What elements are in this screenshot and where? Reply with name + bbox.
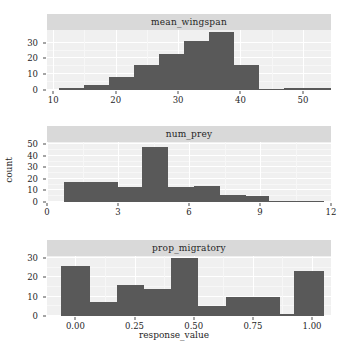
x-tick-mark <box>178 91 179 94</box>
histogram-bar <box>246 196 270 202</box>
y-tick-mark <box>43 42 46 43</box>
x-tick-mark <box>260 203 261 206</box>
y-tick-mark <box>43 296 46 297</box>
y-tick-mark <box>43 144 46 145</box>
gridline-vertical-minor <box>84 30 85 90</box>
y-tick-label: 30 <box>0 38 38 48</box>
panel-mean-wingspan: mean_wingspan <box>47 14 331 90</box>
plot-area-num-prey <box>47 142 331 202</box>
x-tick-label: 40 <box>235 95 246 105</box>
histogram-bar <box>220 195 246 202</box>
x-tick-label: 6 <box>186 207 191 217</box>
x-tick-label: 3 <box>115 207 120 217</box>
y-tick-mark <box>43 190 46 191</box>
y-tick-label: 0 <box>0 85 38 95</box>
histogram-bar <box>259 89 284 90</box>
histogram-bar <box>159 54 184 90</box>
histogram-bar <box>269 201 323 202</box>
histogram-bar <box>194 186 220 202</box>
histogram-bar <box>226 297 253 316</box>
panel-num-prey: num_prey <box>47 126 331 202</box>
histogram-bar <box>294 271 324 316</box>
x-tick-label: 9 <box>257 207 262 217</box>
x-tick-label: 12 <box>326 207 337 217</box>
y-tick-mark <box>43 74 46 75</box>
x-tick-mark <box>118 203 119 206</box>
gridline-vertical-minor <box>272 30 273 90</box>
histogram-bar <box>209 32 234 90</box>
x-tick-mark <box>302 91 303 94</box>
x-tick-mark <box>53 91 54 94</box>
panel-prop-migratory: prop_migratory <box>47 240 331 316</box>
plot-area-mean-wingspan <box>47 30 331 90</box>
x-tick-mark <box>252 317 253 320</box>
y-tick-label: 30 <box>0 253 38 263</box>
histogram-bar <box>309 88 331 90</box>
y-tick-mark <box>43 90 46 91</box>
histogram-bar <box>134 65 159 90</box>
gridline-vertical <box>53 30 54 90</box>
gridline-vertical <box>260 142 261 202</box>
histogram-bar <box>168 187 194 202</box>
histogram-bar <box>64 182 91 202</box>
histogram-bar <box>198 306 225 316</box>
histogram-bar <box>91 182 118 202</box>
histogram-bar <box>253 297 280 316</box>
x-tick-mark <box>189 203 190 206</box>
x-tick-mark <box>115 91 116 94</box>
y-tick-label: 0 <box>0 311 38 321</box>
histogram-bar <box>118 187 142 202</box>
x-tick-label: 0 <box>44 207 49 217</box>
y-tick-mark <box>43 155 46 156</box>
histogram-bar <box>59 88 84 90</box>
histogram-bar <box>284 88 309 90</box>
x-tick-mark <box>312 317 313 320</box>
histogram-bar <box>84 85 109 90</box>
x-tick-mark <box>193 317 194 320</box>
gridline-vertical-minor <box>282 256 283 316</box>
x-tick-mark <box>240 91 241 94</box>
x-tick-mark <box>75 317 76 320</box>
x-tick-mark <box>331 203 332 206</box>
histogram-bar <box>142 147 168 202</box>
x-tick-label: 10 <box>48 95 59 105</box>
histogram-bar <box>61 266 89 316</box>
y-tick-label: 20 <box>0 272 38 282</box>
y-tick-label: 10 <box>0 69 38 79</box>
y-tick-mark <box>43 316 46 317</box>
histogram-bar <box>171 258 198 316</box>
x-tick-label: 30 <box>173 95 184 105</box>
y-tick-mark <box>43 277 46 278</box>
gridline-vertical <box>47 142 48 202</box>
plot-area-prop-migratory <box>47 256 331 316</box>
panel-title-prop-migratory: prop_migratory <box>47 240 331 256</box>
histogram-bar <box>280 314 294 316</box>
x-axis-label: response_value <box>0 330 348 340</box>
x-tick-mark <box>134 317 135 320</box>
y-tick-label: 10 <box>0 292 38 302</box>
y-tick-mark <box>43 178 46 179</box>
y-tick-mark <box>43 257 46 258</box>
y-tick-label: 0 <box>0 197 38 207</box>
y-tick-mark <box>43 58 46 59</box>
x-tick-mark <box>47 203 48 206</box>
gridline-vertical-minor <box>225 142 226 202</box>
histogram-bar <box>184 41 209 90</box>
histogram-bar <box>90 302 117 316</box>
histogram-bar <box>109 77 134 90</box>
y-tick-mark <box>43 167 46 168</box>
gridline-vertical <box>303 30 304 90</box>
x-tick-label: 50 <box>297 95 308 105</box>
panel-title-num-prey: num_prey <box>47 126 331 142</box>
histogram-bar <box>234 65 259 90</box>
gridline-vertical-minor <box>296 142 297 202</box>
x-tick-label: 20 <box>110 95 121 105</box>
histogram-bar <box>117 285 144 316</box>
histogram-bar <box>144 289 171 316</box>
figure-root: mean_wingspan num_prey prop_migratory 01… <box>0 0 348 352</box>
panel-title-mean-wingspan: mean_wingspan <box>47 14 331 30</box>
y-axis-label: count <box>4 145 14 195</box>
y-tick-label: 20 <box>0 53 38 63</box>
